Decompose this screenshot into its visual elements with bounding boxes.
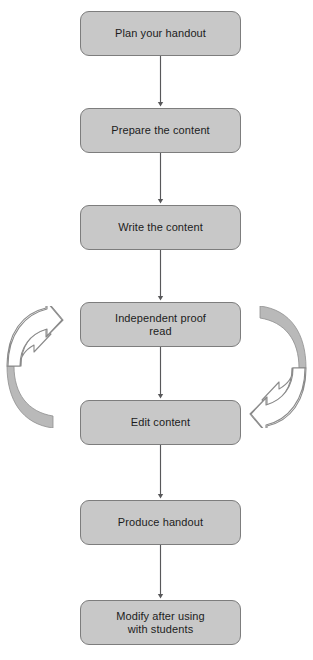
node-label: Prepare the content	[107, 124, 214, 137]
node-label-line2: with students	[128, 623, 194, 635]
node-label-line2: read	[149, 325, 171, 337]
node-label: Modify after usingwith students	[112, 610, 209, 636]
right-curved-arrow	[249, 306, 307, 428]
node-independent-proof-read[interactable]: Independent proofread	[80, 302, 241, 347]
node-modify-after-using-with-students[interactable]: Modify after usingwith students	[80, 600, 241, 645]
node-label-line1: Modify after using	[116, 610, 205, 622]
flowchart-canvas: Plan your handout Prepare the content Wr…	[0, 0, 313, 660]
node-prepare-the-content[interactable]: Prepare the content	[80, 108, 241, 153]
right-curve-shadow	[260, 306, 306, 368]
left-curved-arrow	[6, 306, 64, 428]
left-curve-shadow	[7, 366, 53, 428]
node-label: Edit content	[127, 416, 194, 429]
node-label: Plan your handout	[111, 27, 210, 40]
node-produce-handout[interactable]: Produce handout	[80, 500, 241, 545]
node-plan-your-handout[interactable]: Plan your handout	[80, 11, 241, 56]
node-edit-content[interactable]: Edit content	[80, 400, 241, 445]
node-label: Write the content	[114, 221, 207, 234]
node-write-the-content[interactable]: Write the content	[80, 205, 241, 250]
node-label-line1: Independent proof	[115, 312, 206, 324]
node-label: Produce handout	[114, 516, 207, 529]
node-label: Independent proofread	[111, 312, 210, 338]
